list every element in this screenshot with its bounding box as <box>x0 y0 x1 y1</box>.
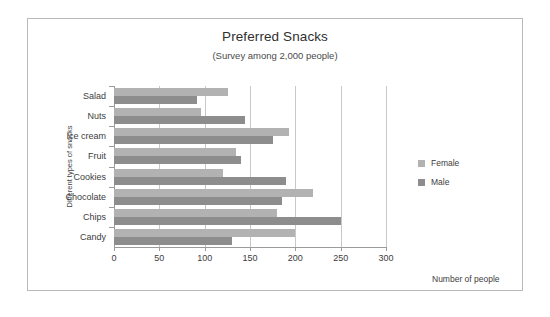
bar-male <box>114 217 341 225</box>
chart-legend: FemaleMale <box>418 158 459 196</box>
bar-female <box>114 209 277 217</box>
y-axis-tick-label: Fruit <box>88 151 106 161</box>
bar-female <box>114 229 295 237</box>
bar-male <box>114 116 245 124</box>
x-axis-tick-label: 150 <box>242 253 257 263</box>
bar-group <box>114 187 386 207</box>
bar-male <box>114 197 282 205</box>
x-axis-tick <box>386 247 387 251</box>
y-axis-tick-label: Ice cream <box>66 131 106 141</box>
bar-male <box>114 177 286 185</box>
x-axis-tick-label: 250 <box>333 253 348 263</box>
chart-subtitle: (Survey among 2,000 people) <box>28 50 522 61</box>
legend-item[interactable]: Male <box>418 177 459 187</box>
legend-item[interactable]: Female <box>418 158 459 168</box>
x-axis-tick <box>159 247 160 251</box>
bar-female <box>114 169 223 177</box>
chart-frame: Preferred Snacks (Survey among 2,000 peo… <box>27 18 523 291</box>
x-axis-tick <box>205 247 206 251</box>
x-axis-tick-label: 50 <box>154 253 164 263</box>
x-axis-tick-label: 300 <box>378 253 393 263</box>
x-axis-title: Number of people <box>432 274 500 284</box>
y-axis-tick-label: Chocolate <box>65 192 106 202</box>
bars-layer <box>114 86 386 247</box>
bar-female <box>114 108 201 116</box>
y-axis-tick-label: Salad <box>83 91 106 101</box>
x-axis-tick-label: 0 <box>111 253 116 263</box>
bar-female <box>114 189 313 197</box>
x-axis-tick-label: 100 <box>197 253 212 263</box>
bar-group <box>114 126 386 146</box>
bar-group <box>114 146 386 166</box>
bar-male <box>114 96 197 104</box>
legend-swatch-icon <box>418 179 425 186</box>
legend-swatch-icon <box>418 160 425 167</box>
chart-title: Preferred Snacks <box>28 29 522 44</box>
bar-male <box>114 156 241 164</box>
x-axis-tick <box>295 247 296 251</box>
y-axis-tick-label: Candy <box>80 232 106 242</box>
bar-group <box>114 207 386 227</box>
x-axis-tick <box>114 247 115 251</box>
legend-item-label: Male <box>431 177 449 187</box>
bar-female <box>114 148 236 156</box>
gridline <box>386 86 387 247</box>
plot-area: SaladNutsIce creamFruitCookiesChocolateC… <box>114 86 386 247</box>
bar-group <box>114 106 386 126</box>
y-axis-tick-label: Nuts <box>87 111 106 121</box>
x-axis-tick-label: 200 <box>288 253 303 263</box>
x-axis-tick <box>341 247 342 251</box>
y-axis-tick-label: Cookies <box>73 172 106 182</box>
bar-male <box>114 136 273 144</box>
bar-group <box>114 167 386 187</box>
bar-female <box>114 128 289 136</box>
bar-group <box>114 86 386 106</box>
y-axis-title: Different types of snacks <box>64 86 76 247</box>
legend-item-label: Female <box>431 158 459 168</box>
bar-group <box>114 227 386 247</box>
y-axis-tick-label: Chips <box>83 212 106 222</box>
bar-male <box>114 237 232 245</box>
x-axis-tick <box>250 247 251 251</box>
bar-female <box>114 88 228 96</box>
